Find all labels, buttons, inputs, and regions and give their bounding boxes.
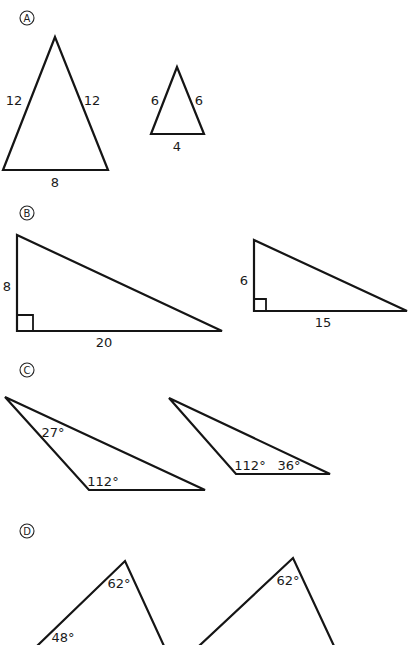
obtuse-triangle-c1: 27° 112°	[5, 397, 205, 490]
side-label-horizontal: 15	[315, 315, 332, 330]
triangle-d1: 62° 48°	[37, 561, 164, 645]
side-label-left: 12	[6, 93, 23, 108]
right-triangle-b1: 8 20	[3, 235, 222, 350]
side-label-right: 12	[84, 93, 101, 108]
angle-label-top: 62°	[107, 576, 130, 591]
triangle-a2: 6 6 4	[151, 67, 204, 154]
right-angle-mark	[254, 299, 266, 311]
side-label-left: 6	[151, 93, 159, 108]
angle-label-top: 62°	[276, 573, 299, 588]
section-b: B 8 20 6 15	[3, 206, 407, 350]
svg-text:A: A	[24, 13, 31, 24]
section-a: A 12 12 8 6 6 4	[3, 11, 204, 190]
right-triangle-b2: 6 15	[240, 240, 407, 330]
right-angle-mark	[17, 315, 33, 331]
svg-text:B: B	[24, 208, 31, 219]
section-marker-a: A	[20, 11, 34, 25]
obtuse-triangle-c2: 112° 36°	[169, 398, 330, 474]
side-label-vertical: 6	[240, 273, 248, 288]
angle-label-obtuse: 112°	[87, 474, 118, 489]
side-label-vertical: 8	[3, 279, 11, 294]
svg-text:C: C	[24, 365, 31, 376]
angle-label-obtuse: 112°	[234, 458, 265, 473]
side-label-horizontal: 20	[96, 335, 113, 350]
side-label-base: 8	[51, 175, 59, 190]
triangle-d2: 62°	[199, 558, 334, 645]
svg-text:D: D	[23, 526, 31, 537]
section-d: D 62° 48° 62°	[20, 524, 334, 645]
worksheet-figures: A 12 12 8 6 6 4 B 8 20 6	[0, 0, 410, 645]
section-c: C 27° 112° 112° 36°	[5, 363, 330, 490]
side-label-right: 6	[195, 93, 203, 108]
section-marker-b: B	[20, 206, 34, 220]
angle-label-right: 36°	[277, 458, 300, 473]
angle-label-top: 27°	[41, 425, 64, 440]
side-label-base: 4	[173, 139, 181, 154]
section-marker-c: C	[20, 363, 34, 377]
triangle-a1: 12 12 8	[3, 37, 108, 190]
angle-label-left: 48°	[51, 630, 74, 645]
section-marker-d: D	[20, 524, 34, 538]
